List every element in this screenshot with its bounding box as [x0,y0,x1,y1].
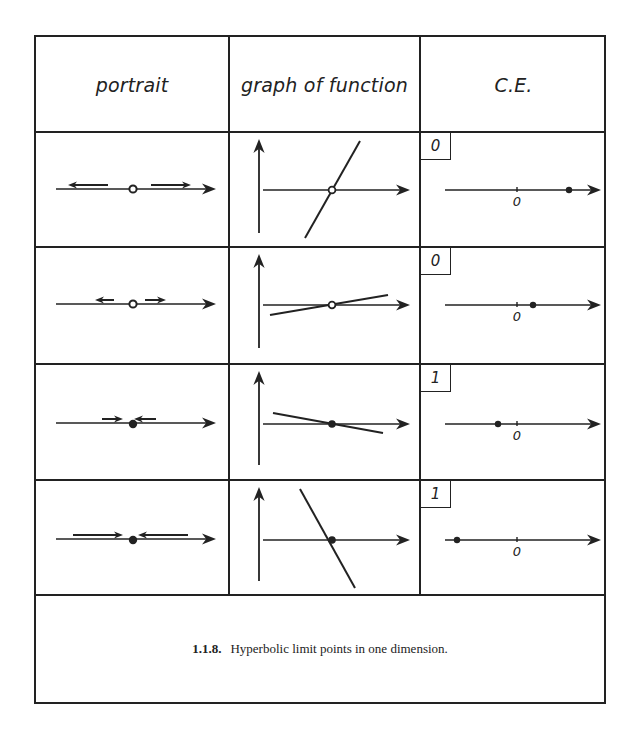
header-portrait: portrait [36,37,228,132]
caption-number: 1.1.8. [192,641,221,657]
function-graph [230,133,419,246]
ce-cell: 00 [421,248,606,361]
zero-crossing-filled-icon [328,420,336,428]
eigenvalue-dot-icon [495,421,501,427]
ce-number-line [421,481,606,594]
attracting-fixed-point-icon [129,420,137,428]
header-graph-of-function: graph of function [230,37,419,132]
phase-portrait [36,365,228,478]
portrait-cell [36,365,228,478]
header-ce: C.E. [421,37,606,132]
function-graph [230,481,419,594]
graph-cell [230,481,419,594]
ce-number-line [421,365,606,478]
ce-cell: 10 [421,481,606,594]
ce-number-line [421,248,606,361]
ce-cell: 00 [421,133,606,246]
function-graph [230,365,419,478]
zero-crossing-open-icon [329,187,336,194]
figure-caption: 1.1.8. Hyperbolic limit points in one di… [36,595,604,702]
figure-frame: portrait graph of function C.E. 00001010… [34,35,606,704]
eigenvalue-dot-icon [454,537,460,543]
zero-label: 0 [513,194,521,209]
ce-cell: 10 [421,365,606,478]
eigenvalue-dot-icon [566,187,572,193]
zero-label: 0 [513,544,521,559]
zero-crossing-open-icon [329,302,336,309]
repelling-fixed-point-icon [129,185,136,192]
portrait-cell [36,481,228,594]
function-graph [230,248,419,361]
function-line [300,489,355,588]
graph-cell [230,365,419,478]
portrait-cell [36,133,228,246]
zero-label: 0 [513,309,521,324]
eigenvalue-dot-icon [530,302,536,308]
zero-crossing-filled-icon [328,536,336,544]
graph-cell [230,133,419,246]
phase-portrait [36,248,228,361]
zero-label: 0 [513,428,521,443]
repelling-fixed-point-icon [129,300,136,307]
attracting-fixed-point-icon [129,536,137,544]
portrait-cell [36,248,228,361]
ce-number-line [421,133,606,246]
function-line [273,413,383,433]
phase-portrait [36,133,228,246]
graph-cell [230,248,419,361]
caption-text: Hyperbolic limit points in one dimension… [230,641,447,657]
phase-portrait [36,481,228,594]
